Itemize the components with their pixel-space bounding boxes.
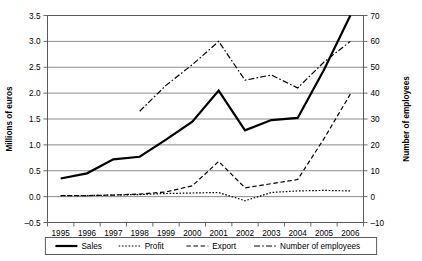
right-axis-title: Number of employees	[402, 76, 411, 162]
legend-label-export: Export	[212, 242, 236, 251]
x-tick-label: 2006	[341, 229, 360, 238]
x-tick-label: 1997	[104, 229, 123, 238]
right-axis-tick-labels: –10010203040506070	[371, 12, 385, 228]
data-series-group	[61, 16, 351, 201]
x-tick-label: 2005	[315, 229, 334, 238]
x-tick-label: 2002	[236, 229, 255, 238]
series-line-sales	[61, 16, 351, 179]
right-tick-label: 70	[371, 12, 381, 21]
left-tick-label: 3.5	[29, 12, 41, 21]
left-tick-label: –0.5	[25, 219, 41, 228]
right-tick-label: 40	[371, 89, 381, 98]
legend-label-number-of-employees: Number of employees	[280, 242, 360, 251]
left-tick-label: 2.5	[29, 63, 41, 72]
x-tick-label: 2003	[262, 229, 281, 238]
left-tick-label: 1.0	[29, 141, 41, 150]
right-tick-label: 20	[371, 141, 381, 150]
left-tick-label: 3.0	[29, 37, 41, 46]
x-tick-label: 2004	[289, 229, 308, 238]
left-tick-label: 0.0	[29, 193, 41, 202]
right-tick-label: 50	[371, 63, 381, 72]
right-tick-label: 0	[371, 193, 376, 202]
chart-legend: SalesProfitExportNumber of employees	[45, 238, 376, 255]
right-tick-label: 60	[371, 37, 381, 46]
chart-container: –0.50.00.51.01.52.02.53.03.5 –1001020304…	[0, 0, 422, 261]
x-tick-label: 1998	[131, 229, 150, 238]
x-tick-label: 1999	[157, 229, 176, 238]
x-tick-label: 2001	[210, 229, 229, 238]
x-axis-tick-labels: 1995199619971998199920002001200220032004…	[52, 229, 360, 238]
series-line-number-of-employees	[140, 41, 351, 111]
legend-label-sales: Sales	[81, 242, 101, 251]
x-axis-ticks	[48, 223, 364, 227]
right-tick-label: 10	[371, 167, 381, 176]
right-tick-label: 30	[371, 115, 381, 124]
x-tick-label: 1996	[78, 229, 97, 238]
left-tick-label: 1.5	[29, 115, 41, 124]
right-tick-label: –10	[371, 219, 385, 228]
left-tick-label: 2.0	[29, 89, 41, 98]
legend-label-profit: Profit	[145, 242, 165, 251]
left-axis-tick-labels: –0.50.00.51.01.52.02.53.03.5	[25, 12, 41, 228]
left-axis-title: Millions of euros	[5, 86, 14, 151]
right-axis-ticks	[364, 16, 368, 223]
left-tick-label: 0.5	[29, 167, 41, 176]
x-tick-label: 1995	[52, 229, 71, 238]
left-axis-ticks	[44, 16, 48, 223]
x-tick-label: 2000	[183, 229, 202, 238]
line-chart: –0.50.00.51.01.52.02.53.03.5 –1001020304…	[0, 0, 422, 261]
